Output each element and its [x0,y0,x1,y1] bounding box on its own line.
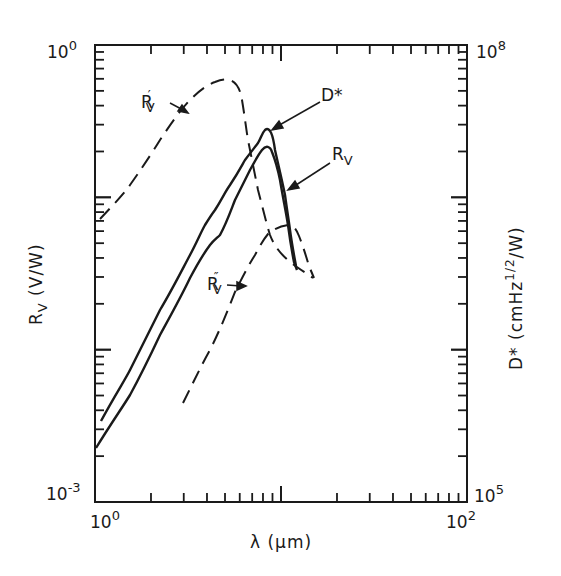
rv-double-prime-label: R″V [207,269,222,297]
rv-prime-arrowhead [178,105,188,113]
rv-arrowhead [288,181,299,190]
y-right-max-label: 108 [476,38,506,62]
dstar-arrow [276,102,320,127]
rv-arrow [293,163,330,187]
x-axis-title: λ (μm) [250,532,312,552]
rv-curve [96,147,297,448]
dstar-curve [101,129,296,421]
rv-prime-label: R′V [141,87,155,115]
y-left-max-label: 100 [47,38,77,62]
rv-double-prime-arrowhead [237,282,246,290]
rv-label: RV [332,144,353,168]
dstar-label: D* [321,85,343,105]
y-left-axis-title: RV (V/W) [26,243,50,325]
y-right-min-label: 105 [474,482,504,506]
y-right-axis-title: D* (cmHz1/2/W) [503,226,526,370]
y-left-min-label: 10-3 [46,480,81,504]
chart-figure: R′V D* RV R″V 100 10-3 108 105 100 102 λ… [0,0,561,576]
x-max-label: 102 [446,508,476,532]
x-min-label: 100 [90,508,120,532]
dstar-arrowhead [272,121,283,130]
